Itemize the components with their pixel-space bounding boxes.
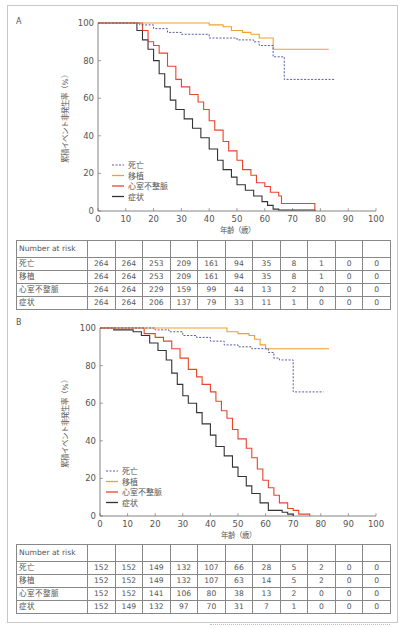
y-axis-label: 累積イベント非発生率（%） <box>60 376 70 467</box>
risk-count: 152 <box>88 588 116 601</box>
risk-count: 152 <box>115 575 143 588</box>
legend-label: 症状 <box>122 498 138 508</box>
risk-count: 0 <box>363 284 391 297</box>
risk-count: 0 <box>363 588 391 601</box>
risk-count: 0 <box>308 601 336 614</box>
risk-count: 264 <box>88 271 116 284</box>
risk-count: 149 <box>143 575 171 588</box>
risk-count: 2 <box>280 284 308 297</box>
risk-count: 253 <box>143 271 171 284</box>
risk-count: 31 <box>225 601 253 614</box>
table-row: 移植15215214913210763145200 <box>17 575 391 588</box>
risk-count: 0 <box>363 562 391 575</box>
row-label: 心室不整脈 <box>17 284 88 297</box>
risk-count: 253 <box>143 258 171 271</box>
table-row: 移植26426425320916194358100 <box>17 271 391 284</box>
x-tick-label: 90 <box>343 519 354 529</box>
risk-table-b: Number at risk死亡15215214913210766285200移… <box>16 544 391 614</box>
risk-count: 0 <box>335 575 363 588</box>
risk-count: 161 <box>198 271 226 284</box>
risk-count: 0 <box>363 601 391 614</box>
row-label: 移植 <box>17 271 88 284</box>
table-row: 死亡15215214913210766285200 <box>17 562 391 575</box>
risk-count: 0 <box>335 271 363 284</box>
risk-count: 94 <box>225 258 253 271</box>
x-tick-label: 80 <box>315 519 326 529</box>
risk-count: 0 <box>335 601 363 614</box>
table-header-row: Number at risk <box>17 241 391 258</box>
table-row: 死亡26426425320916194358100 <box>17 258 391 271</box>
risk-count: 264 <box>88 258 116 271</box>
risk-count: 137 <box>170 297 198 310</box>
risk-count: 0 <box>335 284 363 297</box>
risk-count: 141 <box>143 588 171 601</box>
risk-count: 1 <box>280 601 308 614</box>
risk-count: 152 <box>115 562 143 575</box>
row-label: 症状 <box>17 601 88 614</box>
y-tick-label: 40 <box>85 436 96 446</box>
y-tick-label: 80 <box>85 361 96 371</box>
risk-count: 229 <box>143 284 171 297</box>
legend-label: 移植 <box>122 477 138 487</box>
risk-count: 35 <box>253 258 281 271</box>
risk-count: 8 <box>280 271 308 284</box>
risk-count: 209 <box>170 271 198 284</box>
risk-count: 8 <box>280 258 308 271</box>
x-tick-label: 40 <box>205 519 216 529</box>
risk-count: 0 <box>308 588 336 601</box>
risk-count: 264 <box>115 297 143 310</box>
risk-count: 206 <box>143 297 171 310</box>
risk-count: 132 <box>170 562 198 575</box>
table-row: 症状2642642061377933111000 <box>17 297 391 310</box>
risk-count: 264 <box>88 297 116 310</box>
risk-count: 152 <box>115 588 143 601</box>
risk-count: 94 <box>225 271 253 284</box>
risk-count: 152 <box>88 601 116 614</box>
risk-count: 149 <box>143 562 171 575</box>
x-axis-label: 年齢（歳） <box>221 530 256 540</box>
x-tick-label: 60 <box>260 519 271 529</box>
x-tick-label: 70 <box>288 519 299 529</box>
risk-count: 132 <box>143 601 171 614</box>
x-tick-label: 30 <box>177 519 188 529</box>
risk-count: 14 <box>253 575 281 588</box>
risk-count: 35 <box>253 271 281 284</box>
risk-count: 33 <box>225 297 253 310</box>
risk-count: 132 <box>170 575 198 588</box>
risk-count: 149 <box>115 601 143 614</box>
table-row: 症状15214913297703171000 <box>17 601 391 614</box>
table-header-row: Number at risk <box>17 545 391 562</box>
risk-count: 264 <box>115 284 143 297</box>
x-tick-label: 0 <box>97 519 102 529</box>
risk-count: 1 <box>308 271 336 284</box>
risk-count: 0 <box>363 575 391 588</box>
risk-count: 107 <box>198 562 226 575</box>
risk-count: 159 <box>170 284 198 297</box>
risk-count: 107 <box>198 575 226 588</box>
risk-count: 2 <box>308 575 336 588</box>
x-tick-label: 100 <box>368 519 384 529</box>
risk-count: 7 <box>253 601 281 614</box>
risk-count: 0 <box>335 588 363 601</box>
risk-count: 99 <box>198 284 226 297</box>
risk-count: 0 <box>308 284 336 297</box>
y-tick-label: 20 <box>85 473 96 483</box>
risk-count: 70 <box>198 601 226 614</box>
risk-count: 161 <box>198 258 226 271</box>
risk-count: 97 <box>170 601 198 614</box>
risk-count: 106 <box>170 588 198 601</box>
risk-count: 38 <box>225 588 253 601</box>
risk-count: 1 <box>308 258 336 271</box>
row-label: 死亡 <box>17 562 88 575</box>
table-row: 心室不整脈2642642291599944132000 <box>17 284 391 297</box>
row-label: 症状 <box>17 297 88 310</box>
risk-count: 2 <box>308 562 336 575</box>
risk-count: 0 <box>363 297 391 310</box>
table-row: 心室不整脈1521521411068038132000 <box>17 588 391 601</box>
row-label: 死亡 <box>17 258 88 271</box>
risk-count: 80 <box>198 588 226 601</box>
legend-label: 心室不整脈 <box>122 487 162 497</box>
risk-count: 44 <box>225 284 253 297</box>
risk-count: 2 <box>280 588 308 601</box>
risk-count: 152 <box>88 575 116 588</box>
